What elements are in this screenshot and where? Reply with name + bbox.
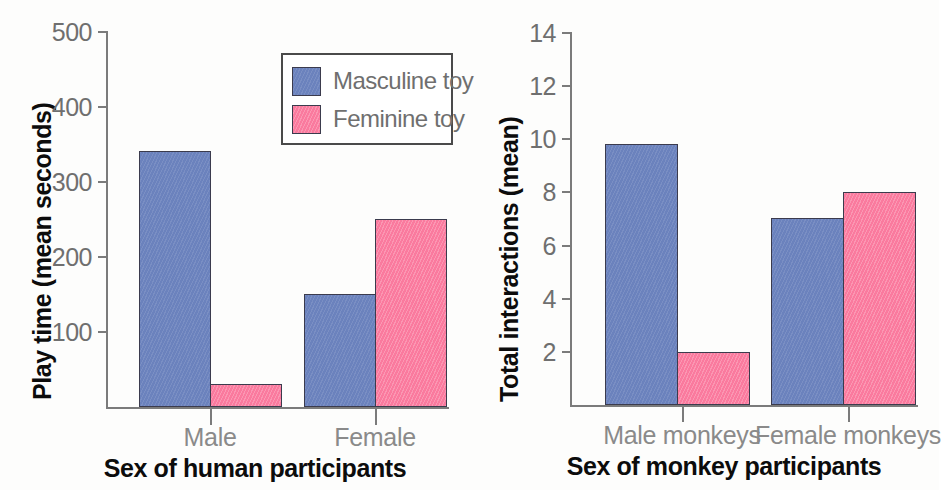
y-tick-mark-10-monkey [562, 138, 571, 140]
y-tick-label-300-human: 300 [28, 168, 92, 197]
y-tick-label-14-monkey: 14 [495, 19, 556, 48]
bar-male-monkeys-feminine-toy[interactable] [677, 352, 750, 405]
legend-row-masculine[interactable]: Masculine toy [292, 62, 451, 100]
y-tick-mark-200-human [98, 256, 107, 258]
bar-male-monkeys-masculine-toy[interactable] [605, 144, 678, 405]
y-tick-label-400-human: 400 [28, 93, 92, 122]
y-tick-mark-14-monkey [562, 32, 571, 34]
x-tick-mark-male-monkeys [682, 406, 684, 422]
y-tick-mark-4-monkey [562, 298, 571, 300]
legend-box: Masculine toy Feminine toy [281, 53, 453, 145]
plot-area-monkey [572, 32, 918, 405]
y-tick-label-100-human: 100 [28, 318, 92, 347]
legend-row-feminine[interactable]: Feminine toy [292, 100, 451, 138]
x-axis-line-human [106, 407, 449, 409]
y-tick-mark-6-monkey [562, 245, 571, 247]
x-axis-line-monkey [570, 405, 918, 407]
y-tick-label-4-monkey: 4 [495, 285, 556, 314]
y-tick-mark-2-monkey [562, 351, 571, 353]
bar-male-masculine-toy[interactable] [139, 151, 211, 407]
x-axis-title-human: Sex of human participants [60, 454, 450, 483]
legend-label-masculine: Masculine toy [333, 67, 473, 95]
bar-female-masculine-toy[interactable] [304, 294, 376, 407]
y-tick-mark-8-monkey [562, 191, 571, 193]
x-category-label-female-monkeys: Female monkeys [742, 421, 945, 450]
masculine-swatch-icon [292, 67, 321, 96]
y-tick-label-12-monkey: 12 [495, 72, 556, 101]
x-category-label-female: Female [313, 423, 437, 452]
y-tick-label-2-monkey: 2 [495, 338, 556, 367]
y-tick-mark-12-monkey [562, 85, 571, 87]
y-tick-mark-500-human [98, 31, 107, 33]
bar-male-feminine-toy[interactable] [210, 384, 282, 407]
y-tick-label-8-monkey: 8 [495, 178, 556, 207]
legend-label-feminine: Feminine toy [333, 105, 464, 133]
chart-panel-human: Play time (mean seconds) 500 400 300 200… [0, 0, 470, 490]
bar-female-feminine-toy[interactable] [375, 219, 447, 407]
y-tick-label-10-monkey: 10 [495, 125, 556, 154]
y-tick-mark-100-human [98, 331, 107, 333]
y-tick-mark-300-human [98, 181, 107, 183]
y-tick-mark-400-human [98, 106, 107, 108]
chart-panel-monkey: Total interactions (mean) 14 12 10 8 6 4… [469, 0, 939, 490]
x-axis-title-monkey: Sex of monkey participants [524, 452, 924, 481]
x-tick-mark-female-monkeys [848, 406, 850, 422]
feminine-swatch-icon [292, 105, 321, 134]
x-category-label-male: Male [150, 423, 270, 452]
y-tick-label-6-monkey: 6 [495, 232, 556, 261]
bar-female-monkeys-feminine-toy[interactable] [843, 192, 916, 405]
y-tick-label-500-human: 500 [28, 18, 92, 47]
bar-female-monkeys-masculine-toy[interactable] [771, 218, 844, 405]
y-tick-label-200-human: 200 [28, 243, 92, 272]
